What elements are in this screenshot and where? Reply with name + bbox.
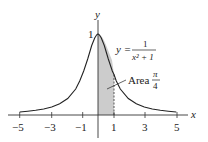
x-axis-label: x: [190, 108, 196, 120]
y-tick-label: 1: [88, 28, 94, 40]
graph: −5 −3 −1 1 3 5 x y 1 y = 1 x² + 1 Area π…: [0, 0, 208, 142]
area-label-numerator: π: [153, 69, 158, 79]
y-axis-label: y: [94, 8, 100, 20]
function-label-lhs: y =: [115, 43, 131, 55]
x-tick-label: −5: [12, 121, 24, 133]
area-label-text: Area: [128, 74, 149, 86]
x-tick-label: 1: [111, 121, 117, 133]
x-tick-label: 3: [142, 121, 148, 133]
shaded-area: [98, 34, 114, 115]
x-tick-label: −1: [75, 121, 87, 133]
area-label-denominator: 4: [153, 81, 158, 91]
function-label-numerator: 1: [143, 39, 148, 49]
function-label-denominator: x² + 1: [131, 52, 154, 62]
x-tick-label: −3: [44, 121, 56, 133]
x-tick-label: 5: [174, 121, 180, 133]
